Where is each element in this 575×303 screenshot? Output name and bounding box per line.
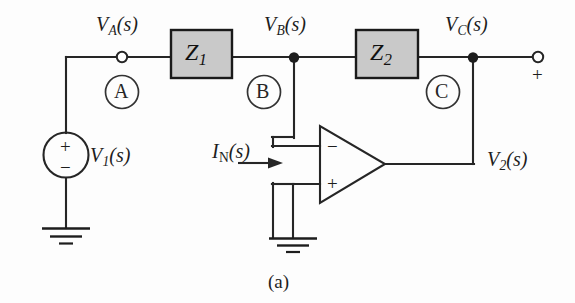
junction-dot-node-c [468, 52, 478, 62]
opamp-noninverting-sign: + [327, 174, 338, 193]
circuit-figure: VA(s) VB(s) VC(s) V1(s) V2(s) IN(s) Z1 Z… [0, 0, 575, 303]
source-minus-sign: − [60, 158, 71, 177]
label-v2: V2(s) [487, 149, 527, 172]
impedance-label-z2: Z2 [370, 40, 392, 68]
ground-symbol-source [42, 229, 90, 244]
label-v1: V1(s) [90, 145, 130, 168]
impedance-label-z1: Z1 [185, 40, 207, 68]
output-terminal-plus-sign: + [532, 65, 543, 84]
label-va: VA(s) [96, 14, 138, 37]
terminal-open-circle-a [117, 52, 127, 62]
label-vc: VC(s) [445, 14, 488, 37]
node-label-a: A [114, 81, 128, 101]
figure-caption: (a) [268, 271, 289, 293]
label-vb: VB(s) [264, 14, 306, 37]
label-in: IN(s) [212, 141, 250, 164]
junction-dot-node-b [289, 52, 299, 62]
node-label-b: B [256, 81, 269, 101]
source-plus-sign: + [60, 137, 71, 156]
terminal-open-circle-output [533, 52, 543, 62]
ground-symbol-opamp [269, 239, 317, 253]
opamp-inverting-sign: − [327, 137, 338, 156]
node-label-c: C [435, 81, 448, 101]
